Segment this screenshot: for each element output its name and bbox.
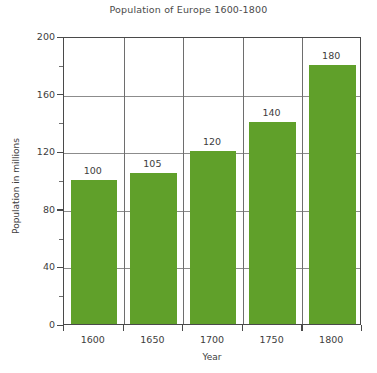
plot-area xyxy=(63,37,361,325)
x-axis-tick-label: 1650 xyxy=(122,334,182,345)
gridline-vertical xyxy=(183,38,184,324)
x-axis-tick xyxy=(301,325,302,331)
x-axis-tick xyxy=(242,325,243,331)
y-axis-tick-label: 0 xyxy=(15,319,55,330)
bar-value-label: 180 xyxy=(301,50,361,61)
x-axis-tick xyxy=(361,325,362,331)
y-axis-label: Population in millions xyxy=(11,116,21,256)
bar xyxy=(309,65,356,324)
y-axis-tick-label: 80 xyxy=(15,204,55,215)
gridline-vertical xyxy=(124,38,125,324)
bar xyxy=(249,122,296,324)
bar-value-label: 105 xyxy=(122,158,182,169)
y-axis-tick-label: 160 xyxy=(15,89,55,100)
x-axis-label: Year xyxy=(63,352,361,362)
y-axis-tick-label: 120 xyxy=(15,146,55,157)
x-axis-tick xyxy=(63,325,64,331)
bar-value-label: 140 xyxy=(242,107,302,118)
chart-title: Population of Europe 1600-1800 xyxy=(0,4,377,15)
x-axis-tick-label: 1700 xyxy=(182,334,242,345)
gridline-vertical xyxy=(243,38,244,324)
x-axis-tick xyxy=(182,325,183,331)
bar xyxy=(190,151,237,324)
bar xyxy=(130,173,177,324)
gridline-vertical xyxy=(302,38,303,324)
x-axis-tick-label: 1750 xyxy=(242,334,302,345)
bar-chart: Population of Europe 1600-1800 Populatio… xyxy=(0,0,377,373)
x-axis-tick xyxy=(123,325,124,331)
bar-value-label: 100 xyxy=(63,165,123,176)
x-axis-tick-label: 1800 xyxy=(301,334,361,345)
x-axis-tick-label: 1600 xyxy=(63,334,123,345)
y-axis-tick-label: 200 xyxy=(15,31,55,42)
y-axis-tick-label: 40 xyxy=(15,261,55,272)
bar-value-label: 120 xyxy=(182,136,242,147)
bar xyxy=(71,180,118,324)
